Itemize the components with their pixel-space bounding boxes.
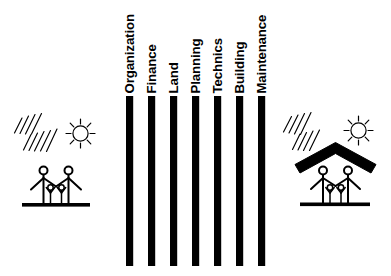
pillar-label-building: Building [232, 42, 247, 94]
pillar-bar [148, 96, 155, 266]
pillar-label-maintenance: Maintenance [254, 15, 269, 94]
pillar-bar [126, 96, 133, 266]
ground-line [300, 203, 370, 207]
pillar-label-finance: Finance [144, 44, 159, 93]
pillar-label-organization: Organization [122, 14, 137, 93]
pillar-label-technics: Technics [210, 38, 225, 93]
pillar-label-planning: Planning [188, 39, 203, 94]
pillar-label-land: Land [166, 62, 181, 93]
pillar-bar [214, 96, 221, 266]
ground-line [22, 203, 90, 207]
pillar-bar [236, 96, 243, 266]
pillars-of-housing-diagram: Organization Finance Land Planning Techn… [0, 0, 391, 276]
pillar-bar [258, 96, 265, 266]
diagram-canvas: Organization Finance Land Planning Techn… [0, 0, 391, 276]
pillar-bar [192, 96, 199, 266]
pillar-bar [170, 96, 177, 266]
